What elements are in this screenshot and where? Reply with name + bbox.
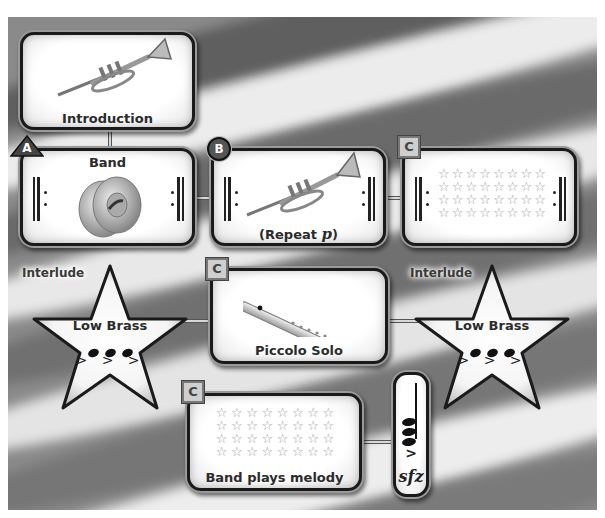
repeat-dot	[235, 203, 238, 206]
node-section-c2: Piccolo Solo	[210, 268, 388, 364]
star-icon: ☆	[321, 445, 336, 458]
repeat-text-close: )	[332, 227, 338, 242]
trumpet-icon	[242, 151, 362, 221]
repeat-dot	[171, 203, 174, 206]
repeat-dot	[553, 191, 556, 194]
accent-mark: >	[396, 445, 426, 461]
repeat-end-icon	[368, 177, 376, 221]
interlude-left-label: Low Brass	[30, 318, 190, 333]
repeat-text: (Repeat	[259, 227, 321, 242]
star-icon: ☆	[478, 206, 492, 219]
repeat-end-icon	[177, 177, 185, 221]
dynamic-piano: p	[321, 225, 332, 243]
stars-grid: ☆☆☆☆☆☆☆☆☆☆☆☆☆☆☆☆☆☆☆☆☆☆☆☆☆☆☆☆☆☆☆☆	[437, 167, 547, 219]
star-icon: ☆	[214, 445, 229, 458]
interlude-right-label: Low Brass	[412, 318, 572, 333]
star-icon: ☆	[290, 445, 305, 458]
node-coda-sfz: > sfz	[393, 372, 429, 497]
badge-a: A	[10, 135, 44, 157]
section-a-label: Band	[23, 155, 192, 170]
connector-c3-coda	[362, 440, 392, 444]
badge-c2: C	[206, 258, 228, 280]
star-icon: ☆	[520, 206, 534, 219]
repeat-end-icon	[559, 177, 567, 221]
repeat-dot	[362, 191, 365, 194]
star-icon: ☆	[533, 206, 547, 219]
node-section-c3: ☆☆☆☆☆☆☆☆☆☆☆☆☆☆☆☆☆☆☆☆☆☆☆☆☆☆☆☆☆☆☆☆ Band pl…	[187, 393, 362, 491]
dynamic-sfz: sfz	[396, 467, 426, 486]
piccolo-icon	[243, 279, 358, 337]
star-shape-icon	[412, 262, 572, 412]
section-c3-label: Band plays melody	[190, 470, 359, 485]
node-section-a: Band	[20, 148, 195, 246]
star-icon: ☆	[506, 206, 520, 219]
connector-intro-a	[108, 128, 112, 150]
badge-b: B	[207, 137, 231, 161]
star-icon: ☆	[492, 206, 506, 219]
star-icon: ☆	[306, 445, 321, 458]
star-icon: ☆	[245, 445, 260, 458]
section-b-label: (Repeat p)	[214, 225, 383, 243]
star-icon: ☆	[451, 206, 465, 219]
star-shape-icon	[30, 262, 190, 412]
badge-a-letter: A	[10, 141, 44, 155]
badge-c3: C	[182, 381, 204, 403]
repeat-dot	[44, 191, 47, 194]
star-icon: ☆	[437, 206, 451, 219]
node-section-c1: ☆☆☆☆☆☆☆☆☆☆☆☆☆☆☆☆☆☆☆☆☆☆☆☆☆☆☆☆☆☆☆☆	[402, 148, 577, 246]
node-interlude-right: Low Brass > > >	[412, 262, 572, 412]
connector-b-c1	[384, 196, 404, 200]
accent-marks: > > >	[30, 352, 190, 368]
connector-a-b	[193, 196, 213, 200]
node-interlude-left: Low Brass > > >	[30, 262, 190, 412]
repeat-dot	[553, 203, 556, 206]
badge-c1: C	[398, 136, 420, 158]
section-c2-label: Piccolo Solo	[213, 343, 385, 358]
cymbals-icon	[71, 173, 151, 239]
repeat-start-icon	[224, 177, 232, 221]
repeat-dot	[44, 203, 47, 206]
star-icon: ☆	[229, 445, 244, 458]
star-icon: ☆	[465, 206, 479, 219]
repeat-dot	[171, 191, 174, 194]
stars-grid: ☆☆☆☆☆☆☆☆☆☆☆☆☆☆☆☆☆☆☆☆☆☆☆☆☆☆☆☆☆☆☆☆	[214, 406, 336, 458]
star-icon: ☆	[260, 445, 275, 458]
repeat-dot	[426, 203, 429, 206]
node-section-b: (Repeat p)	[211, 148, 386, 246]
repeat-start-icon	[33, 177, 41, 221]
introduction-label: Introduction	[23, 111, 192, 126]
star-icon: ☆	[275, 445, 290, 458]
repeat-start-icon	[415, 177, 423, 221]
trumpet-icon	[53, 37, 173, 99]
accent-marks: > > >	[412, 352, 572, 368]
repeat-dot	[235, 191, 238, 194]
repeat-dot	[362, 203, 365, 206]
repeat-dot	[426, 191, 429, 194]
node-introduction: Introduction	[20, 32, 195, 130]
